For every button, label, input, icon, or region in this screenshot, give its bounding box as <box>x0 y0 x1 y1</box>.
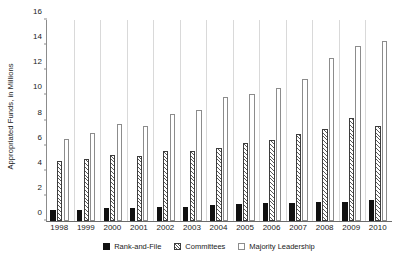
x-axis-labels: 1998199920002001200220032004200520062007… <box>46 223 391 237</box>
y-axis-tick-label: 12 <box>7 57 47 66</box>
bar-group <box>365 20 392 221</box>
bar-group <box>259 20 286 221</box>
x-axis-tick-label: 2001 <box>130 223 148 232</box>
bar-majority-leadership <box>355 46 360 221</box>
bar-rank-and-file <box>77 210 82 221</box>
bar-committees <box>243 143 248 221</box>
bar-rank-and-file <box>130 208 135 221</box>
legend-swatch-rank-and-file <box>103 243 110 250</box>
bar-committees <box>216 148 221 221</box>
bar-committees <box>190 151 195 221</box>
bar-majority-leadership <box>302 79 307 221</box>
bar-committees <box>322 129 327 221</box>
bar-majority-leadership <box>117 124 122 221</box>
bar-group <box>180 20 207 221</box>
legend-item-label: Committees <box>185 242 225 251</box>
bar-rank-and-file <box>104 208 109 221</box>
bar-committees <box>296 134 301 221</box>
y-axis-tick-label: 16 <box>7 7 47 16</box>
bar-committees <box>110 155 115 221</box>
bar-group <box>153 20 180 221</box>
x-axis-tick-label: 2002 <box>157 223 175 232</box>
y-axis-title-label: Appropriated Funds, in Millions <box>6 63 15 169</box>
bar-rank-and-file <box>369 200 374 221</box>
bar-majority-leadership <box>329 58 334 221</box>
y-axis-tick-label: 6 <box>7 132 47 141</box>
bar-majority-leadership <box>90 133 95 221</box>
x-axis-tick-label: 2010 <box>369 223 387 232</box>
bar-rank-and-file <box>210 205 215 221</box>
bar-committees <box>269 140 274 221</box>
bar-rank-and-file <box>157 207 162 221</box>
bar-rank-and-file <box>183 207 188 221</box>
legend-swatch-committees <box>174 243 181 250</box>
x-axis-tick-label: 2003 <box>183 223 201 232</box>
bar-majority-leadership <box>249 94 254 221</box>
x-axis-tick-label: 2008 <box>316 223 334 232</box>
bar-committees <box>375 126 380 221</box>
bar-majority-leadership <box>64 139 69 221</box>
bar-rank-and-file <box>263 203 268 221</box>
bar-group <box>312 20 339 221</box>
chart-legend: Rank-and-FileCommitteesMajority Leadersh… <box>0 242 418 251</box>
y-axis-tick-label: 10 <box>7 82 47 91</box>
bar-majority-leadership <box>382 41 387 221</box>
bar-committees <box>57 161 62 221</box>
legend-item[interactable]: Rank-and-File <box>103 242 161 251</box>
bar-chart: Appropriated Funds, in Millions 02468101… <box>0 0 418 264</box>
x-axis-tick-label: 1999 <box>77 223 95 232</box>
bar-majority-leadership <box>276 88 281 221</box>
legend-item[interactable]: Majority Leadership <box>238 242 314 251</box>
plot-area: 0246810121416 <box>46 20 392 222</box>
x-axis-tick-label: 2000 <box>103 223 121 232</box>
legend-item-label: Majority Leadership <box>249 242 314 251</box>
x-axis-tick-label: 2006 <box>263 223 281 232</box>
bar-group <box>47 20 74 221</box>
bar-group <box>74 20 101 221</box>
bar-committees <box>163 151 168 221</box>
y-axis-tick-label: 2 <box>7 182 47 191</box>
bar-group <box>100 20 127 221</box>
bars-layer <box>47 20 392 221</box>
legend-swatch-majority-leadership <box>238 243 245 250</box>
bar-rank-and-file <box>316 202 321 221</box>
bar-rank-and-file <box>236 204 241 221</box>
bar-group <box>339 20 366 221</box>
bar-group <box>206 20 233 221</box>
bar-majority-leadership <box>196 110 201 221</box>
bar-rank-and-file <box>50 210 55 221</box>
x-axis-tick-label: 2004 <box>210 223 228 232</box>
x-axis-tick-label: 1998 <box>50 223 68 232</box>
bar-committees <box>137 156 142 221</box>
bar-majority-leadership <box>170 114 175 221</box>
y-axis-tick-label: 0 <box>7 208 47 217</box>
x-axis-tick-label: 2007 <box>289 223 307 232</box>
bar-group <box>233 20 260 221</box>
bar-majority-leadership <box>223 97 228 221</box>
legend-item-label: Rank-and-File <box>114 242 161 251</box>
bar-committees <box>349 118 354 221</box>
bar-committees <box>84 159 89 221</box>
legend-item[interactable]: Committees <box>174 242 225 251</box>
y-axis-tick-label: 14 <box>7 32 47 41</box>
x-axis-tick-label: 2005 <box>236 223 254 232</box>
bar-rank-and-file <box>289 203 294 221</box>
bar-group <box>286 20 313 221</box>
y-axis-tick-label: 4 <box>7 157 47 166</box>
x-axis-tick-label: 2009 <box>342 223 360 232</box>
y-axis-tick-label: 8 <box>7 107 47 116</box>
bar-rank-and-file <box>342 202 347 221</box>
bar-majority-leadership <box>143 126 148 221</box>
bar-group <box>127 20 154 221</box>
